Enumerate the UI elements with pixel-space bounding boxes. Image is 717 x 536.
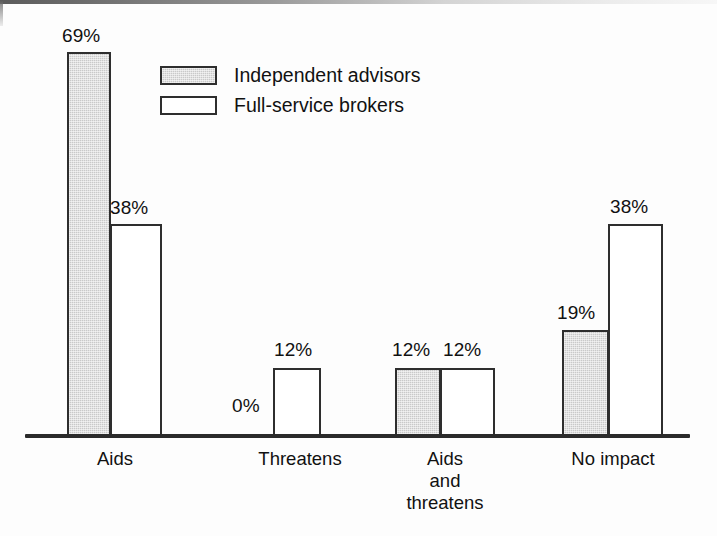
- legend-swatch-icon-full-service-brokers: [160, 96, 217, 115]
- bar-value-threatens-independent-advisors: 0%: [232, 396, 260, 415]
- bar-value-threatens-full-service-brokers: 12%: [274, 340, 312, 359]
- bar-aids-full-service-brokers: [110, 224, 162, 436]
- legend-swatch-icon-independent-advisors: [160, 66, 217, 85]
- x-axis-label-no-impact: No impact: [548, 448, 678, 470]
- x-axis-label-threatens: Threatens: [230, 448, 370, 470]
- bar-value-aids-full-service-brokers: 38%: [110, 198, 148, 217]
- bar-chart-plot-area: Independent advisors Full-service broker…: [0, 0, 717, 536]
- bar-aids-and-threatens-independent-advisors: [395, 368, 441, 436]
- bar-threatens-full-service-brokers: [273, 368, 321, 436]
- x-axis-baseline: [25, 434, 690, 438]
- bar-no-impact-full-service-brokers: [608, 224, 663, 436]
- bar-value-aids-independent-advisors: 69%: [62, 26, 100, 45]
- legend-item-full-service-brokers: Full-service brokers: [160, 90, 490, 120]
- bar-aids-independent-advisors: [67, 52, 111, 436]
- legend-label-full-service-brokers: Full-service brokers: [234, 95, 404, 115]
- legend-label-independent-advisors: Independent advisors: [234, 65, 420, 85]
- bar-value-aids-and-threatens-full-service-brokers: 12%: [443, 340, 481, 359]
- bar-aids-and-threatens-full-service-brokers: [440, 368, 495, 436]
- bar-value-aids-and-threatens-independent-advisors: 12%: [392, 340, 430, 359]
- chart-page: Independent advisors Full-service broker…: [0, 0, 717, 536]
- x-axis-label-aids: Aids: [55, 448, 175, 470]
- bar-value-no-impact-independent-advisors: 19%: [557, 303, 595, 322]
- x-axis-label-aids-and-threatens: Aids and threatens: [385, 448, 505, 514]
- chart-legend: Independent advisors Full-service broker…: [160, 60, 490, 120]
- bar-no-impact-independent-advisors: [562, 330, 609, 436]
- bar-value-no-impact-full-service-brokers: 38%: [610, 197, 648, 216]
- legend-item-independent-advisors: Independent advisors: [160, 60, 490, 90]
